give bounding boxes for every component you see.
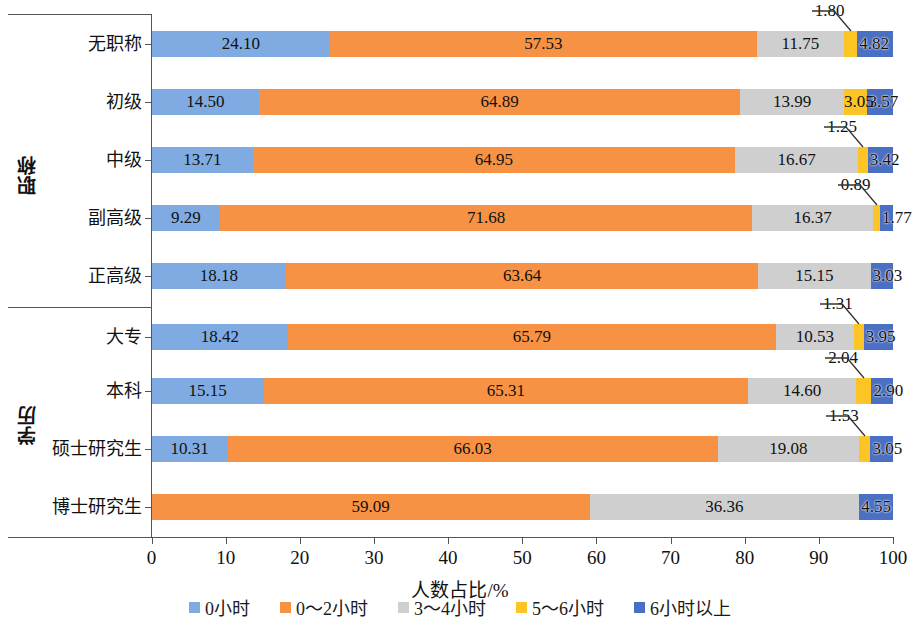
legend-swatch-icon [634, 602, 645, 613]
x-axis-tick [671, 537, 672, 544]
x-axis-tick [448, 537, 449, 544]
segment-value-label: 65.79 [288, 324, 776, 350]
legend-label: 3～4小时 [414, 594, 486, 620]
segment-value-label: 65.31 [264, 378, 748, 404]
group-divider-line [8, 307, 152, 308]
legend-label: 0小时 [205, 594, 250, 620]
legend-swatch-icon [280, 602, 291, 613]
x-axis-tick [819, 537, 820, 544]
segment-value-label: 15.15 [152, 378, 264, 404]
x-axis-tick [745, 537, 746, 544]
x-axis-tick [300, 537, 301, 544]
x-axis-tick-label: 100 [879, 547, 908, 569]
legend-item[interactable]: 3～4小时 [398, 594, 486, 620]
legend-swatch-icon [189, 602, 200, 613]
stacked-bar-chart: 职称学历无职称24.1057.5311.754.821.80初级14.5064.… [0, 0, 920, 628]
segment-value-label: 64.89 [259, 89, 740, 115]
callout-leader-line [832, 181, 892, 215]
category-tick [145, 507, 152, 508]
segment-value-label: 63.64 [286, 263, 758, 289]
legend-item[interactable]: 0～2小时 [280, 594, 368, 620]
legend: 0小时0～2小时3～4小时5～6小时6小时以上 [0, 594, 920, 620]
segment-value-label: 14.50 [152, 89, 260, 115]
category-label-8: 博士研究生 [0, 494, 142, 520]
segment-value-label: 15.15 [758, 263, 870, 289]
x-axis-tick-label: 30 [364, 547, 383, 569]
segment-value-label-small: 3.05 [844, 89, 867, 115]
segment-value-label: 64.95 [253, 147, 735, 173]
legend-item[interactable]: 0小时 [189, 594, 250, 620]
x-axis-tick [522, 537, 523, 544]
category-tick [145, 44, 152, 45]
category-tick [145, 160, 152, 161]
x-axis-tick-label: 20 [290, 547, 309, 569]
segment-value-label: 18.18 [152, 263, 287, 289]
segment-value-label: 13.71 [152, 147, 254, 173]
legend-label: 5～6小时 [532, 594, 604, 620]
x-axis-tick [893, 537, 894, 544]
category-tick [145, 102, 152, 103]
segment-value-label: 9.29 [152, 205, 221, 231]
category-tick [145, 391, 152, 392]
category-label-2: 中级 [0, 147, 142, 173]
x-axis-tick [596, 537, 597, 544]
category-label-3: 副高级 [0, 205, 142, 231]
segment-value-label: 71.68 [220, 205, 752, 231]
category-label-5: 大专 [0, 324, 142, 350]
legend-swatch-icon [398, 602, 409, 613]
x-axis-tick [226, 537, 227, 544]
segment-value-label-last: 4.55 [861, 494, 891, 520]
category-label-6: 本科 [0, 378, 142, 404]
x-axis-tick [152, 537, 153, 544]
category-label-1: 初级 [0, 89, 142, 115]
category-tick [145, 218, 152, 219]
legend-label: 0～2小时 [296, 594, 368, 620]
segment-value-label: 59.09 [152, 494, 590, 520]
category-tick [145, 449, 152, 450]
segment-value-label: 18.42 [152, 324, 289, 350]
category-label-4: 正高级 [0, 263, 142, 289]
x-axis-tick-label: 10 [216, 547, 235, 569]
callout-leader-line [820, 412, 880, 446]
x-axis-tick-label: 70 [661, 547, 680, 569]
group-divider-line [8, 14, 152, 15]
callout-leader-line [814, 300, 874, 334]
category-tick [145, 337, 152, 338]
legend-item[interactable]: 5～6小时 [516, 594, 604, 620]
legend-item[interactable]: 6小时以上 [634, 594, 731, 620]
legend-label: 6小时以上 [650, 594, 731, 620]
callout-leader-line [806, 7, 866, 41]
x-axis-tick [374, 537, 375, 544]
legend-swatch-icon [516, 602, 527, 613]
x-axis-tick-label: 60 [587, 547, 606, 569]
x-axis-tick-label: 80 [735, 547, 754, 569]
segment-value-label: 57.53 [330, 31, 757, 57]
segment-value-label: 66.03 [228, 436, 718, 462]
segment-value-label-last: 3.03 [873, 263, 903, 289]
callout-leader-line [818, 123, 878, 157]
segment-value-label: 13.99 [740, 89, 844, 115]
x-axis-tick-label: 50 [513, 547, 532, 569]
segment-value-label: 10.31 [152, 436, 228, 462]
x-axis-tick-label: 90 [809, 547, 828, 569]
x-axis-tick-label: 0 [147, 547, 157, 569]
category-label-0: 无职称 [0, 31, 142, 57]
category-tick [145, 276, 152, 277]
callout-leader-line [819, 354, 879, 388]
segment-value-label: 36.36 [590, 494, 860, 520]
x-axis-tick-label: 40 [439, 547, 458, 569]
category-label-7: 硕士研究生 [0, 436, 142, 462]
group-divider-line [8, 537, 152, 538]
group-axis-title-1: 学历 [14, 330, 41, 520]
segment-value-label: 24.10 [152, 31, 331, 57]
